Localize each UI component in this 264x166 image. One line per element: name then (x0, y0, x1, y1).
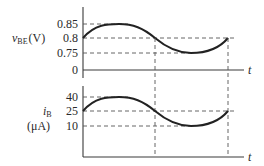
vbe-tick-085: 0.85 (57, 17, 78, 31)
vbe-y-label-sub: BE (17, 37, 27, 46)
ib-tick-25: 25 (66, 104, 78, 118)
vbe-tick-0: 0 (72, 63, 78, 77)
ib-plot: 40 25 10 iB (μA) t (27, 86, 252, 164)
ib-y-label-sub: B (46, 110, 51, 119)
vbe-ib-waveform-diagram: 0.85 0.8 0.75 0 vBE(V) t 40 25 10 iB (μA (0, 0, 264, 166)
vbe-y-label-unit: (V) (29, 31, 46, 45)
ib-t-label: t (248, 150, 252, 164)
ib-y-label: iB (43, 104, 52, 119)
ib-y-label-unit: (μA) (27, 119, 50, 133)
vbe-tick-08: 0.8 (63, 31, 78, 45)
vbe-tick-075: 0.75 (57, 46, 78, 60)
vbe-plot: 0.85 0.8 0.75 0 vBE(V) t (12, 7, 252, 78)
ib-waveform (83, 97, 228, 126)
vbe-t-label: t (248, 63, 252, 77)
ib-tick-40: 40 (66, 90, 78, 104)
vbe-y-label: vBE(V) (12, 31, 45, 46)
vbe-waveform (83, 24, 228, 53)
ib-tick-10: 10 (66, 119, 78, 133)
